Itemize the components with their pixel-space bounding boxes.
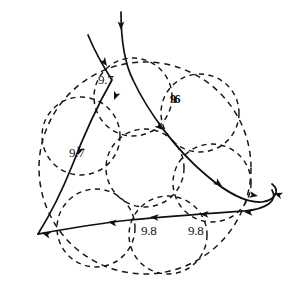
curve-vertical-descending (121, 12, 276, 202)
label-upper-9-7: 9.7 (98, 73, 114, 86)
label-left-9-7: 9.7 (69, 146, 85, 159)
label-bottom-9-8: 9.8 (141, 224, 157, 237)
inner-circles-group (42, 58, 251, 274)
label-smudged-9-6: 9.6 (170, 93, 178, 105)
curve-diagonal-descending (38, 35, 112, 234)
diagram-svg (0, 0, 295, 295)
arrow-right-loop-top (249, 191, 259, 199)
arrow-bottom-right (244, 209, 253, 216)
figure-canvas: 9.7 9.6 9.7 9.8 9.8 (0, 0, 295, 295)
circle-upper-left (42, 97, 120, 175)
arrow-mid-upper-left (111, 91, 120, 101)
label-right-9-8: 9.8 (188, 224, 204, 237)
arrowheads-group (41, 22, 283, 239)
